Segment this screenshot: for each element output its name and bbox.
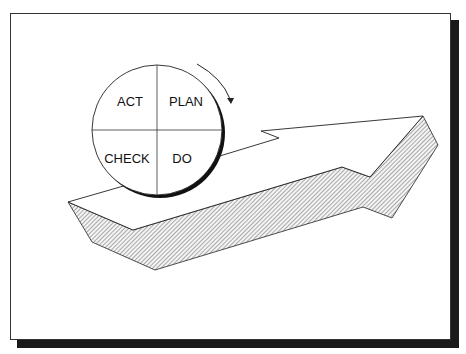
pdca-circle: ACT PLAN CHECK DO [92,65,222,195]
quadrant-act: ACT [117,94,143,109]
quadrant-check: CHECK [104,151,150,166]
quadrant-plan: PLAN [169,94,203,109]
pdca-diagram: ACT PLAN CHECK DO [0,0,466,354]
quadrant-do: DO [172,151,192,166]
